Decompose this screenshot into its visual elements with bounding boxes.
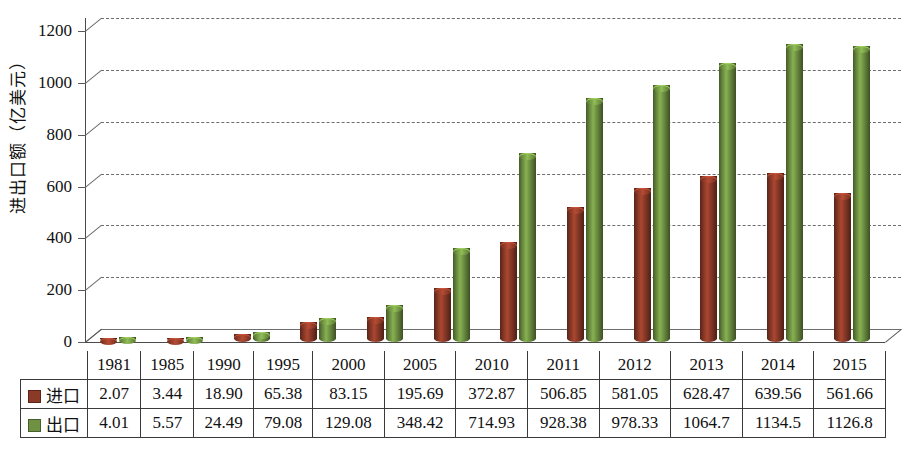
bar-export-2015 xyxy=(853,46,870,342)
bar-import-1985 xyxy=(167,338,184,343)
table-cell: 639.56 xyxy=(742,380,814,409)
y-axis-tick-label: 800 xyxy=(0,126,72,143)
bar-export-1981 xyxy=(119,337,136,342)
bar-import-2000 xyxy=(367,317,384,342)
cylinder-body xyxy=(634,188,651,342)
table-cell: 83.15 xyxy=(313,380,385,409)
table-cell: 18.90 xyxy=(194,380,253,409)
bar-export-1985 xyxy=(186,337,203,342)
table-cell: 348.42 xyxy=(384,409,456,438)
cylinder-top-cap xyxy=(253,332,270,339)
table-cell: 628.47 xyxy=(671,380,743,409)
table-corner-cell xyxy=(21,351,88,380)
bar-export-1990 xyxy=(253,332,270,342)
grid-line xyxy=(101,122,901,123)
y-axis-tick-label: 400 xyxy=(0,229,72,246)
legend-label-text: 进口 xyxy=(46,387,80,406)
cylinder-body xyxy=(719,63,736,342)
floor-right-edge xyxy=(885,329,902,343)
cylinder-top-cap xyxy=(367,317,384,324)
table-cell: 2.07 xyxy=(88,380,141,409)
chart-page: 进出口额（亿美元） 020040060080010001200 19811985… xyxy=(0,0,907,465)
table-column-header: 2005 xyxy=(384,351,456,380)
cylinder-body xyxy=(786,44,803,342)
bar-export-2005 xyxy=(453,248,470,342)
cylinder-body xyxy=(567,207,584,342)
bar-export-2010 xyxy=(519,153,536,342)
bar-import-2014 xyxy=(767,173,784,342)
table-column-header: 2015 xyxy=(814,351,886,380)
table-row: 进口2.073.4418.9065.3883.15195.69372.87506… xyxy=(21,380,886,409)
table-cell: 24.49 xyxy=(194,409,253,438)
bar-export-1995 xyxy=(319,318,336,342)
cylinder-top-cap xyxy=(767,173,784,180)
cylinder-top-cap xyxy=(453,248,470,255)
depth-connector-line xyxy=(85,174,102,188)
table-column-header: 2012 xyxy=(599,351,671,380)
y-axis-tick-mark xyxy=(78,342,85,343)
table-cell: 65.38 xyxy=(253,380,312,409)
cylinder-body xyxy=(453,248,470,342)
depth-connector-line xyxy=(85,18,102,32)
cylinder-top-cap xyxy=(700,176,717,183)
cylinder-body xyxy=(500,242,517,342)
y-axis-tick-label: 0 xyxy=(0,333,72,350)
table-cell: 561.66 xyxy=(814,380,886,409)
table-cell: 3.44 xyxy=(141,380,194,409)
floor-front-edge xyxy=(85,342,885,343)
grid-line xyxy=(101,70,901,71)
bar-import-2005 xyxy=(434,288,451,342)
table-cell: 506.85 xyxy=(527,380,599,409)
table-cell: 581.05 xyxy=(599,380,671,409)
table-cell: 1126.8 xyxy=(814,409,886,438)
table-cell: 928.38 xyxy=(527,409,599,438)
table-column-header: 2010 xyxy=(456,351,528,380)
legend-row-label: 进口 xyxy=(21,380,88,409)
y-axis-tick-mark xyxy=(78,290,85,291)
y-axis-tick-label: 1000 xyxy=(0,74,72,91)
depth-connector-line xyxy=(85,122,102,136)
cylinder-top-cap xyxy=(119,337,136,344)
y-axis-tick-mark xyxy=(78,238,85,239)
cylinder-top-cap xyxy=(434,288,451,295)
cylinder-body xyxy=(586,98,603,342)
table-cell: 4.01 xyxy=(88,409,141,438)
table-cell: 79.08 xyxy=(253,409,312,438)
cylinder-body xyxy=(700,176,717,342)
y-axis-tick-label: 200 xyxy=(0,281,72,298)
y-axis-line xyxy=(85,18,86,342)
bar-export-2011 xyxy=(586,98,603,342)
bar-import-2012 xyxy=(634,188,651,342)
bar-chart: 进出口额（亿美元） 020040060080010001200 xyxy=(0,0,907,355)
cylinder-top-cap xyxy=(186,337,203,344)
legend-row-label: 出口 xyxy=(21,409,88,438)
bar-export-2013 xyxy=(719,63,736,342)
legend-swatch-icon xyxy=(28,419,41,432)
table-cell: 5.57 xyxy=(141,409,194,438)
data-table: 1981198519901995200020052010201120122013… xyxy=(20,351,886,438)
table-cell: 1064.7 xyxy=(671,409,743,438)
depth-connector-line xyxy=(85,277,102,291)
grid-line xyxy=(101,18,901,19)
cylinder-top-cap xyxy=(500,242,517,249)
table-cell: 129.08 xyxy=(313,409,385,438)
table-cell: 195.69 xyxy=(384,380,456,409)
table-cell: 1134.5 xyxy=(742,409,814,438)
cylinder-top-cap xyxy=(634,188,651,195)
y-axis-tick-label: 600 xyxy=(0,178,72,195)
y-axis-tick-mark xyxy=(78,83,85,84)
table-cell: 372.87 xyxy=(456,380,528,409)
cylinder-top-cap xyxy=(653,85,670,92)
cylinder-body xyxy=(767,173,784,342)
cylinder-top-cap xyxy=(300,322,317,329)
bar-export-2000 xyxy=(386,305,403,342)
table-column-header: 2014 xyxy=(742,351,814,380)
cylinder-top-cap xyxy=(100,338,117,345)
cylinder-top-cap xyxy=(234,334,251,341)
depth-connector-line xyxy=(85,70,102,84)
table-cell: 714.93 xyxy=(456,409,528,438)
bar-import-2010 xyxy=(500,242,517,342)
table-column-header: 2011 xyxy=(527,351,599,380)
y-axis-tick-mark xyxy=(78,31,85,32)
table-column-header: 1981 xyxy=(88,351,141,380)
